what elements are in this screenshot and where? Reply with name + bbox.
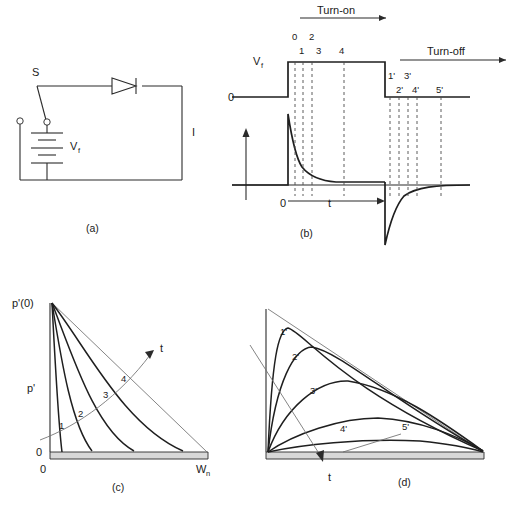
time-origin-label: 0 (280, 197, 286, 209)
panel-b-waveforms: Turn-on Turn-off 0 2 1 3 4 1' 3' 2' 4' 5… (228, 4, 506, 245)
voltage-waveform (232, 62, 470, 97)
source-label: V (70, 140, 78, 152)
panel-a-circuit: S V f I (a) (17, 66, 195, 234)
turn-on-arrow-head (379, 15, 386, 21)
switch-terminal-left (17, 118, 23, 124)
panel-c-y-zero-label: 0 (36, 446, 42, 458)
time-axis-label: t (328, 197, 331, 209)
figure-svg: S V f I (a) Turn-on Turn-off 0 2 1 3 4 1… (0, 0, 513, 505)
turn-off-mark-3p: 3' (404, 70, 411, 81)
panel-c-time-label: t (160, 342, 163, 354)
turn-on-mark-2: 2 (309, 31, 314, 42)
panel-c-time-arrow-head (145, 350, 154, 359)
panel-c-time-axis (40, 355, 150, 440)
turn-off-mark-1p: 1' (388, 70, 395, 81)
turn-off-mark-4p: 4' (412, 84, 419, 95)
panel-c-steady-envelope (52, 303, 207, 452)
panel-d-curve-3p (268, 381, 483, 452)
turn-off-arrow-head (499, 57, 506, 63)
panel-c-base-bar (50, 452, 208, 459)
panel-d-leader-5p (343, 434, 401, 452)
panel-d-curve-label-5p: 5' (402, 421, 409, 432)
panel-d-base-bar (266, 452, 484, 459)
current-waveform-turn-on (232, 114, 385, 185)
switch-terminal-right (44, 119, 50, 125)
panel-c-x-origin-label: 0 (40, 463, 46, 475)
panel-c-curve-label-3: 3 (103, 389, 108, 400)
panel-c-curve-label-2: 2 (78, 408, 83, 419)
panel-c-x-end-subscript: n (206, 469, 210, 478)
turn-on-mark-4: 4 (339, 45, 344, 56)
panel-c-y-label: p' (27, 382, 35, 394)
voltage-label: V (253, 55, 261, 67)
current-axis-arrow-head (243, 128, 250, 137)
panel-d-steady-envelope (268, 309, 483, 452)
panel-c-curve-label-4: 4 (121, 373, 126, 384)
time-axis-arrow-head (377, 198, 385, 205)
panel-d-caption: (d) (398, 476, 411, 488)
current-waveform-turn-off (385, 182, 470, 245)
turn-on-mark-3: 3 (316, 45, 321, 56)
switch-label: S (32, 66, 39, 78)
turn-on-mark-0: 0 (292, 31, 297, 42)
source-label-subscript: f (78, 146, 81, 155)
current-label: I (192, 126, 195, 138)
panel-c-caption: (c) (112, 481, 124, 493)
diode-triangle-icon (112, 78, 136, 94)
voltage-zero-label: 0 (228, 91, 234, 103)
turn-on-mark-1: 1 (299, 45, 304, 56)
panel-c-curve-2 (52, 303, 92, 451)
panel-d-curve-label-1p: 1' (280, 326, 287, 337)
panel-a-caption: (a) (86, 222, 99, 234)
panel-c-profiles: t 1 2 3 4 p'(0) p' 0 0 W n (c) (12, 297, 210, 493)
panel-d-curve-label-4p: 4' (340, 423, 347, 434)
figure-root: S V f I (a) Turn-on Turn-off 0 2 1 3 4 1… (0, 0, 513, 505)
panel-c-curve-label-1: 1 (59, 420, 64, 431)
panel-d-time-label: t (328, 471, 331, 483)
panel-d-profiles: t 1' 2' 3' 4' 5' (d) (250, 309, 484, 488)
voltage-label-subscript: f (261, 61, 264, 70)
turn-off-label: Turn-off (427, 45, 466, 57)
panel-d-curve-1p (268, 328, 483, 452)
turn-off-mark-2p: 2' (396, 84, 403, 95)
panel-c-curve-4 (52, 303, 183, 451)
turn-off-mark-5p: 5' (436, 84, 443, 95)
panel-d-curve-label-2p: 2' (292, 351, 299, 362)
panel-d-time-axis (250, 345, 320, 455)
panel-d-curve-label-3p: 3' (310, 385, 317, 396)
switch-blade (37, 86, 46, 120)
turn-on-label: Turn-on (317, 4, 355, 16)
panel-b-caption: (b) (300, 227, 313, 239)
panel-c-y-top-label: p'(0) (12, 297, 34, 309)
